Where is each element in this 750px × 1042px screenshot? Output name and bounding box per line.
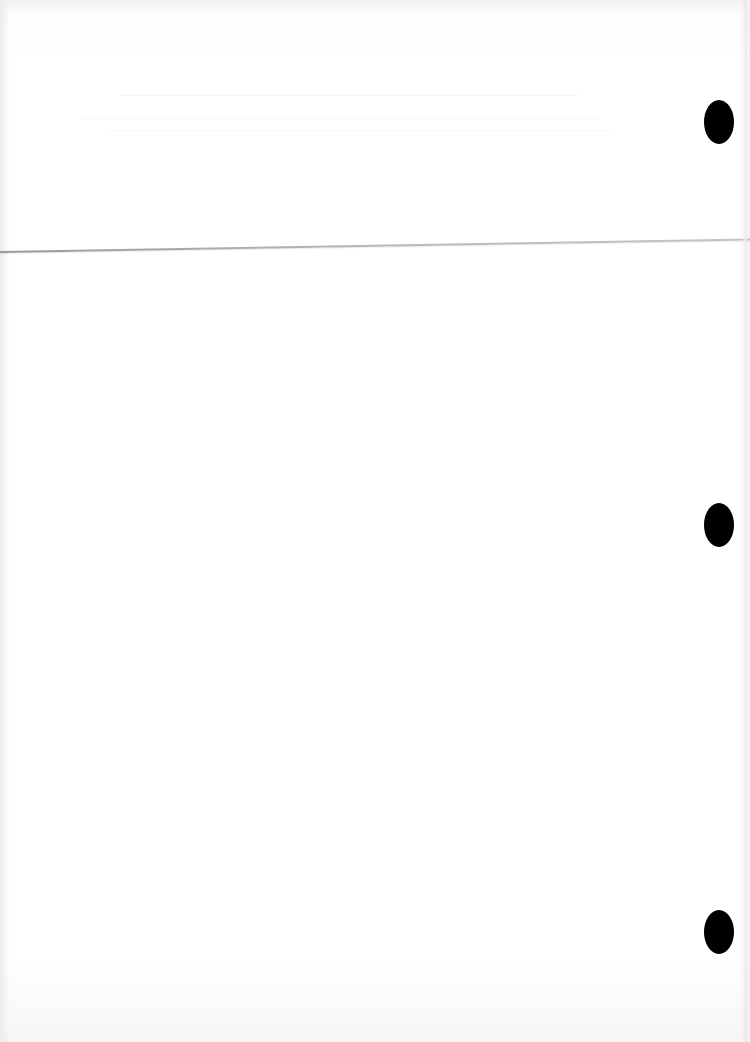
punch-hole-icon bbox=[704, 100, 734, 144]
fold-crease bbox=[0, 239, 750, 253]
bleed-through-text bbox=[80, 118, 600, 119]
bleed-through-text bbox=[120, 95, 580, 96]
bleed-through-text bbox=[110, 130, 610, 131]
punch-hole-icon bbox=[704, 910, 734, 954]
punch-hole-icon bbox=[704, 503, 734, 547]
